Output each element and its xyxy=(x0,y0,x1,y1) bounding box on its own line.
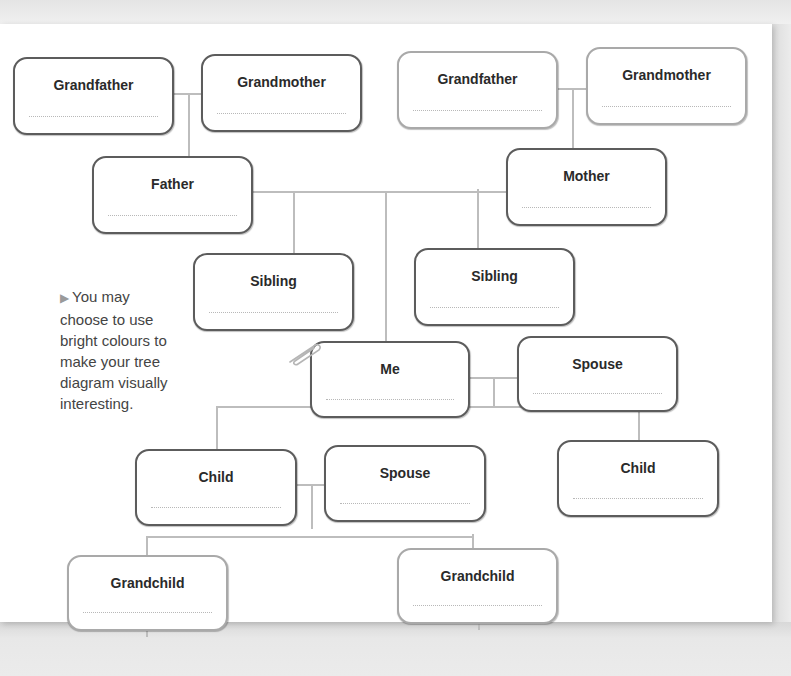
node-label: Grandfather xyxy=(15,77,172,93)
node-child-1-spouse[interactable]: Spouse xyxy=(324,445,486,522)
fill-in-line[interactable] xyxy=(151,507,281,508)
node-grandchild-1[interactable]: Grandchild xyxy=(67,555,228,631)
node-label: Grandchild xyxy=(69,575,226,591)
node-label: Grandmother xyxy=(588,67,745,83)
node-child-1[interactable]: Child xyxy=(135,449,297,526)
node-mother[interactable]: Mother xyxy=(506,148,667,226)
node-child-2[interactable]: Child xyxy=(557,440,719,517)
node-grandchild-2[interactable]: Grandchild xyxy=(397,548,558,624)
node-father[interactable]: Father xyxy=(92,156,253,234)
node-label: Child xyxy=(559,460,717,476)
node-label: Grandchild xyxy=(399,568,556,584)
node-label: Grandmother xyxy=(203,74,360,90)
note-text: You may choose to use bright colours to … xyxy=(60,288,168,412)
node-label: Grandfather xyxy=(399,71,556,87)
fill-in-line[interactable] xyxy=(29,116,158,117)
connector-me-spouse-down xyxy=(493,377,495,407)
connector-child-spouse-down xyxy=(311,484,313,529)
triangle-arrow-icon: ▶ xyxy=(60,291,69,305)
node-sibling-2[interactable]: Sibling xyxy=(414,248,575,326)
node-label: Sibling xyxy=(195,273,352,289)
connector-maternal-to-mother xyxy=(572,88,574,150)
connector-to-sibling-1 xyxy=(293,191,295,254)
node-label: Me xyxy=(312,361,468,377)
paperclip-icon xyxy=(284,340,324,366)
connector-to-sibling-2 xyxy=(477,189,479,250)
fill-in-line[interactable] xyxy=(209,312,338,313)
fill-in-line[interactable] xyxy=(533,393,662,394)
node-paternal-grandmother[interactable]: Grandmother xyxy=(201,54,362,132)
node-label: Sibling xyxy=(416,268,573,284)
connector-to-grandchild-1 xyxy=(146,536,148,556)
connector-to-child-1 xyxy=(216,406,218,450)
node-sibling-1[interactable]: Sibling xyxy=(193,253,354,331)
fill-in-line[interactable] xyxy=(108,215,237,216)
fill-in-line[interactable] xyxy=(573,498,703,499)
fill-in-line[interactable] xyxy=(413,605,542,606)
connector-parents xyxy=(252,191,508,193)
connector-to-me xyxy=(385,191,387,343)
fill-in-line[interactable] xyxy=(326,399,454,400)
fill-in-line[interactable] xyxy=(430,307,559,308)
node-maternal-grandfather[interactable]: Grandfather xyxy=(397,51,558,129)
node-label: Mother xyxy=(508,168,665,184)
node-label: Spouse xyxy=(326,465,484,481)
node-label: Child xyxy=(137,469,295,485)
connector-grandchildren xyxy=(146,536,474,538)
node-maternal-grandmother[interactable]: Grandmother xyxy=(586,47,747,125)
node-me[interactable]: Me xyxy=(310,341,470,418)
fill-in-line[interactable] xyxy=(83,612,212,613)
page-top-edge xyxy=(0,0,791,24)
fill-in-line[interactable] xyxy=(340,503,470,504)
fill-in-line[interactable] xyxy=(522,207,651,208)
node-label: Father xyxy=(94,176,251,192)
fill-in-line[interactable] xyxy=(217,113,346,114)
instruction-note: ▶You may choose to use bright colours to… xyxy=(60,286,180,414)
node-label: Spouse xyxy=(519,356,676,372)
connector-paternal-to-father xyxy=(188,93,190,157)
node-spouse[interactable]: Spouse xyxy=(517,336,678,412)
fill-in-line[interactable] xyxy=(602,106,731,107)
page-right-edge xyxy=(772,24,791,676)
fill-in-line[interactable] xyxy=(413,110,542,111)
node-paternal-grandfather[interactable]: Grandfather xyxy=(13,57,174,135)
